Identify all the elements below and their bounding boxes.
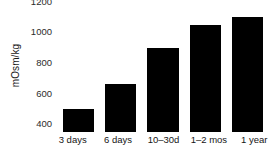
x-axis-tick-label: 1–2 mos xyxy=(186,134,231,146)
y-axis-title: mOsm/kg xyxy=(9,0,23,143)
bar xyxy=(190,25,221,132)
x-axis-tick-labels: 3 days6 days10–30d1–2 mos1 year xyxy=(50,134,277,154)
bar-slot xyxy=(142,0,184,132)
y-axis-tick-label: 600 xyxy=(22,89,52,99)
y-axis-tick-labels: 40060080010001200 xyxy=(22,0,52,155)
bar xyxy=(147,48,178,132)
y-axis-tick-label: 1000 xyxy=(22,27,52,37)
plot-area xyxy=(57,0,269,132)
x-axis-tick-label: 6 days xyxy=(95,134,140,146)
bar xyxy=(105,84,136,132)
bar-slot xyxy=(184,0,226,132)
x-axis-tick-label: 10–30d xyxy=(141,134,186,146)
x-axis-tick-label: 3 days xyxy=(50,134,95,146)
x-axis-tick-label: 1 year xyxy=(232,134,277,146)
bar-chart: mOsm/kg 40060080010001200 3 days6 days10… xyxy=(0,0,277,155)
bar-slot xyxy=(57,0,99,132)
y-axis-tick-label: 400 xyxy=(22,119,52,129)
bar-slot xyxy=(227,0,269,132)
y-axis-tick-label: 1200 xyxy=(22,0,52,7)
bar-slot xyxy=(99,0,141,132)
y-axis-tick-label: 800 xyxy=(22,58,52,68)
bar xyxy=(232,17,263,132)
bar xyxy=(63,109,94,132)
